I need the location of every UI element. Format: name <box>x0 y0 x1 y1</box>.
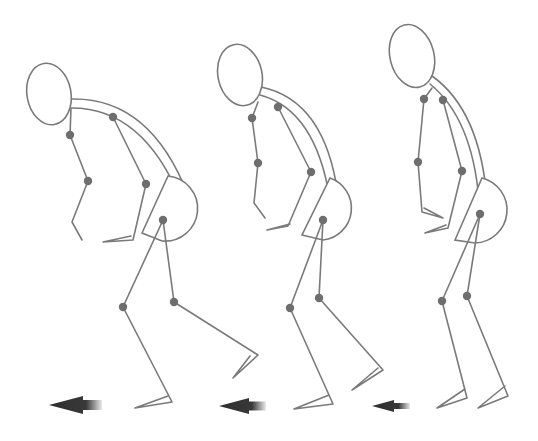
joint-dot <box>109 113 117 121</box>
joint-dot <box>414 158 422 166</box>
stick-figure-1 <box>22 60 258 408</box>
leg-2 <box>163 220 258 378</box>
joint-dot <box>142 180 150 188</box>
arm-2 <box>425 100 462 233</box>
leg-2 <box>319 220 383 390</box>
joint-dot <box>463 292 471 300</box>
arm-1 <box>418 88 443 218</box>
joint-dot <box>274 103 282 111</box>
motion-arrow-long-icon <box>49 396 102 414</box>
joint-dot <box>66 131 74 139</box>
pelvis-shape <box>302 178 351 240</box>
joint-dot <box>286 304 294 312</box>
joint-dot <box>476 210 484 218</box>
motion-arrow-short-icon <box>372 400 410 412</box>
joint-dot <box>458 167 466 175</box>
arrow-shape <box>219 398 266 414</box>
head-shape <box>383 20 441 93</box>
joint-dot <box>159 216 167 224</box>
joint-dot <box>420 95 428 103</box>
joint-dot <box>170 298 178 306</box>
joint-dot <box>307 168 315 176</box>
arm-2 <box>267 107 311 230</box>
joint-dot <box>439 96 447 104</box>
stick-figure-3 <box>383 20 508 408</box>
joint-dot <box>119 303 127 311</box>
joint-dot <box>319 216 327 224</box>
spine-inner-line <box>260 95 330 200</box>
leg-1 <box>123 220 172 408</box>
stick-figure-2 <box>212 40 383 409</box>
motion-arrow-medium-icon <box>219 398 266 414</box>
arrow-shape <box>49 396 102 414</box>
head-shape <box>22 60 76 129</box>
joint-dot <box>248 114 256 122</box>
arm-1 <box>70 108 88 240</box>
joint-dot <box>254 159 262 167</box>
pelvis-shape <box>142 176 198 241</box>
joint-dot <box>315 294 323 302</box>
leg-1 <box>290 220 333 409</box>
arrow-shape <box>372 400 410 412</box>
head-shape <box>212 40 268 110</box>
diagram-canvas <box>0 0 538 441</box>
joint-dot <box>84 177 92 185</box>
joint-dot <box>438 297 446 305</box>
